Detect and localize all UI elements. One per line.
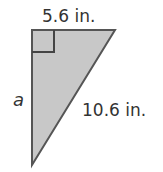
- top-side-label: 5.6 in.: [42, 6, 95, 26]
- side-a-label: a: [13, 89, 24, 110]
- triangle-shape: [32, 30, 115, 165]
- right-triangle-diagram: 5.6 in. a 10.6 in.: [0, 0, 163, 172]
- hypotenuse-label: 10.6 in.: [82, 100, 146, 120]
